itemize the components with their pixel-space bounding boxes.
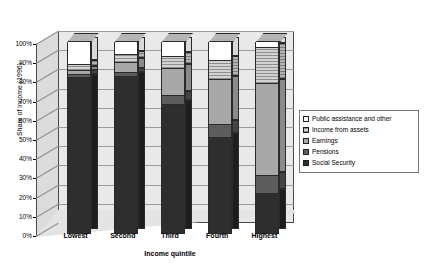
plot-area: 0%10%20%30%40%50%60%70%80%90%100% — [36, 18, 294, 230]
segment-side-pension — [185, 91, 192, 101]
segment-side-social — [279, 189, 286, 229]
y-tick-mark — [33, 102, 36, 103]
y-tick-mark — [33, 217, 36, 218]
segment-side-pension — [138, 68, 145, 72]
y-tick-mark — [33, 159, 36, 160]
y-tick-label: 90% — [2, 60, 32, 67]
y-tick-label: 40% — [2, 156, 32, 163]
legend-label: Income from assets — [312, 127, 369, 134]
segment-side-social — [91, 74, 98, 230]
segment-pension — [162, 95, 184, 105]
x-tick-label-highest: Highest — [236, 232, 292, 239]
segment-social — [162, 104, 184, 233]
legend-item-earn[interactable]: Earnings — [303, 136, 415, 146]
segment-earn — [115, 62, 137, 72]
stacked-bar-chart: Share of income (1996) 0%10%20%30%40%50%… — [0, 0, 424, 268]
x-axis-title: Income quintile — [110, 250, 230, 257]
segment-side-earn — [138, 58, 145, 68]
chart-legend: Public assistance and otherIncome from a… — [299, 110, 419, 173]
legend-label: Social Security — [312, 160, 355, 167]
segment-side-social — [185, 100, 192, 229]
segment-side-earn — [185, 64, 192, 91]
bar-front-face — [114, 42, 138, 234]
y-tick-mark — [33, 140, 36, 141]
segment-pension — [256, 175, 278, 192]
segment-public — [68, 41, 90, 64]
y-tick-mark — [33, 121, 36, 122]
segment-public — [209, 41, 231, 60]
y-tick-mark — [33, 63, 36, 64]
legend-item-pension[interactable]: Pensions — [303, 147, 415, 157]
segment-assets — [162, 56, 184, 68]
segment-assets — [115, 54, 137, 62]
segment-assets — [209, 60, 231, 79]
segment-side-social — [138, 72, 145, 229]
segment-side-earn — [279, 79, 286, 171]
legend-item-public[interactable]: Public assistance and other — [303, 114, 415, 124]
segment-earn — [209, 79, 231, 123]
legend-item-social[interactable]: Social Security — [303, 158, 415, 168]
gridline — [58, 31, 294, 32]
segment-earn — [68, 70, 90, 74]
y-tick-label: 50% — [2, 137, 32, 144]
bar-front-face — [208, 42, 232, 234]
y-tick-label: 0% — [2, 233, 32, 240]
y-tick-mark — [33, 178, 36, 179]
legend-label: Pensions — [312, 149, 339, 156]
legend-item-assets[interactable]: Income from assets — [303, 125, 415, 135]
legend-swatch-icon — [303, 138, 309, 144]
segment-social — [68, 77, 90, 233]
segment-social — [209, 137, 231, 233]
segment-pension — [209, 124, 231, 137]
segment-side-assets — [279, 43, 286, 79]
segment-side-social — [232, 133, 239, 229]
y-tick-label: 10% — [2, 214, 32, 221]
segment-side-assets — [232, 56, 239, 75]
segment-assets — [256, 47, 278, 83]
bar-front-face — [255, 42, 279, 234]
segment-side-assets — [138, 51, 145, 59]
segment-social — [115, 76, 137, 233]
y-tick-label: 60% — [2, 118, 32, 125]
segment-side-assets — [91, 60, 98, 66]
segment-public — [115, 41, 137, 54]
y-tick-mark — [33, 198, 36, 199]
segment-assets — [68, 64, 90, 70]
segment-side-earn — [91, 66, 98, 70]
legend-swatch-icon — [303, 149, 309, 155]
segment-side-earn — [232, 76, 239, 120]
legend-swatch-icon — [303, 116, 309, 122]
y-tick-mark — [33, 82, 36, 83]
legend-label: Public assistance and other — [312, 116, 392, 123]
legend-swatch-icon — [303, 160, 309, 166]
segment-public — [162, 41, 184, 56]
segment-side-pension — [91, 70, 98, 74]
y-tick-mark — [33, 236, 36, 237]
segment-side-pension — [279, 172, 286, 189]
segment-pension — [115, 72, 137, 76]
segment-pension — [68, 74, 90, 78]
segment-side-pension — [232, 120, 239, 133]
legend-swatch-icon — [303, 127, 309, 133]
segment-earn — [162, 68, 184, 95]
segment-social — [256, 193, 278, 233]
legend-label: Earnings — [312, 138, 338, 145]
y-tick-label: 80% — [2, 79, 32, 86]
bar-front-face — [67, 42, 91, 234]
bar-front-face — [161, 42, 185, 234]
y-tick-label: 30% — [2, 175, 32, 182]
y-tick-label: 20% — [2, 195, 32, 202]
y-tick-label: 100% — [2, 41, 32, 48]
y-tick-mark — [33, 44, 36, 45]
segment-earn — [256, 83, 278, 175]
y-tick-label: 70% — [2, 99, 32, 106]
segment-side-assets — [185, 52, 192, 64]
